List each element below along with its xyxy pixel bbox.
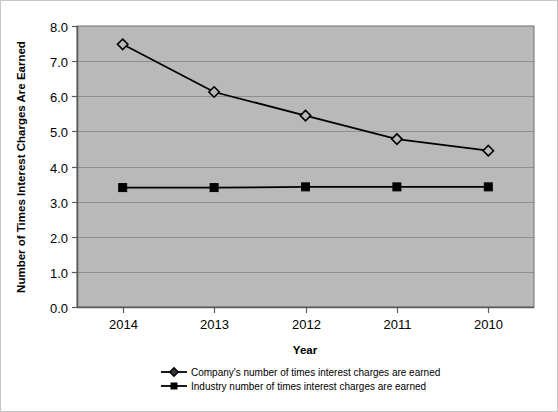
plot-area-background bbox=[77, 26, 534, 307]
diamond-marker bbox=[170, 368, 178, 376]
square-marker bbox=[171, 383, 178, 390]
x-axis-tick-labels: 20142013201220112010 bbox=[109, 317, 503, 332]
line-chart: 0.01.02.03.04.05.06.07.08.0 201420132012… bbox=[1, 1, 558, 412]
y-axis-title: Number of Times Interest Charges Are Ear… bbox=[15, 41, 27, 293]
x-axis-tick-label: 2014 bbox=[109, 317, 138, 332]
legend-label: Company's number of times interest charg… bbox=[191, 367, 440, 378]
y-axis-tick-label: 1.0 bbox=[50, 266, 68, 281]
y-axis-tick-label: 3.0 bbox=[50, 196, 68, 211]
square-marker bbox=[119, 184, 127, 192]
y-axis-tick-label: 6.0 bbox=[50, 90, 68, 105]
y-axis-tick-label: 2.0 bbox=[50, 231, 68, 246]
x-axis-title: Year bbox=[293, 344, 318, 356]
y-axis-tick-label: 7.0 bbox=[50, 55, 68, 70]
y-axis-tick-label: 4.0 bbox=[50, 161, 68, 176]
legend-item[interactable]: Company's number of times interest charg… bbox=[161, 367, 440, 378]
y-axis-tick-label: 8.0 bbox=[50, 20, 68, 35]
legend-label: Industry number of times interest charge… bbox=[191, 381, 426, 392]
y-axis-tick-labels: 0.01.02.03.04.05.06.07.08.0 bbox=[50, 20, 68, 316]
x-axis-tick-label: 2011 bbox=[384, 317, 412, 332]
chart-figure: 0.01.02.03.04.05.06.07.08.0 201420132012… bbox=[0, 0, 558, 412]
square-marker bbox=[302, 183, 310, 191]
y-axis-tick-marks bbox=[72, 27, 77, 308]
y-axis-tick-label: 0.0 bbox=[50, 301, 68, 316]
legend-item[interactable]: Industry number of times interest charge… bbox=[161, 381, 426, 392]
square-marker bbox=[210, 184, 218, 192]
y-axis-tick-label: 5.0 bbox=[50, 125, 68, 140]
square-marker bbox=[484, 183, 492, 191]
chart-legend: Company's number of times interest charg… bbox=[161, 367, 440, 392]
square-marker bbox=[393, 183, 401, 191]
x-axis-tick-label: 2010 bbox=[474, 317, 503, 332]
x-axis-tick-label: 2012 bbox=[292, 317, 321, 332]
x-axis-tick-label: 2013 bbox=[200, 317, 229, 332]
